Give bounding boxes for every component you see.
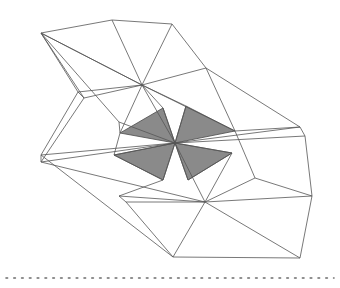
folded-surface-figure	[0, 0, 340, 288]
